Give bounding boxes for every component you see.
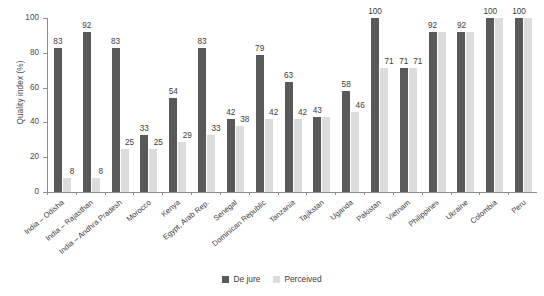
value-label-de-jure: 54	[162, 87, 184, 96]
bar-perceived	[380, 68, 388, 192]
value-label-de-jure: 79	[249, 44, 271, 53]
bar-perceived	[178, 142, 186, 192]
bar-de-jure	[400, 68, 408, 192]
x-tick	[76, 192, 77, 195]
bar-de-jure	[169, 98, 177, 192]
bar-group: 7171	[400, 18, 417, 192]
bar-de-jure	[285, 82, 293, 192]
bar-group: 43	[313, 18, 330, 192]
value-label-de-jure: 83	[191, 37, 213, 46]
value-label-de-jure: 33	[133, 124, 155, 133]
bar-group: 8325	[112, 18, 129, 192]
value-label-de-jure: 100	[479, 7, 501, 16]
bar-de-jure	[227, 119, 235, 192]
value-label-de-jure: 83	[47, 37, 69, 46]
x-tick	[364, 192, 365, 195]
value-label-de-jure: 100	[508, 7, 530, 16]
x-axis-label: Pakistan	[355, 198, 383, 224]
bar-perceived	[409, 68, 417, 192]
bar-perceived	[524, 18, 532, 192]
x-tick	[249, 192, 250, 195]
x-axis-label: Kenya	[159, 198, 181, 219]
legend-item[interactable]: De jure	[222, 274, 260, 284]
bar-de-jure	[198, 48, 206, 192]
bar-de-jure	[457, 32, 465, 192]
value-label-perceived: 71	[407, 57, 429, 66]
x-axis-label: Peru	[509, 198, 527, 215]
x-tick	[278, 192, 279, 195]
x-axis-label: Morocco	[125, 198, 153, 224]
value-label-de-jure: 43	[306, 106, 328, 115]
bar-perceived	[495, 18, 503, 192]
x-axis-label: Tanzania	[268, 198, 297, 224]
x-tick	[479, 192, 480, 195]
bar-group: 6342	[285, 18, 302, 192]
bar-chart: Quality index (%) 020406080100 838928832…	[0, 0, 544, 296]
bar-perceived	[121, 149, 129, 193]
legend-item[interactable]: Perceived	[273, 274, 321, 284]
bar-group: 928	[83, 18, 100, 192]
legend-swatch	[273, 276, 280, 283]
x-tick	[47, 192, 48, 195]
y-tick-label-0: 0	[13, 187, 39, 196]
bar-group: 10071	[371, 18, 388, 192]
y-tick-label-100: 100	[13, 13, 39, 22]
bar-group: 100	[486, 18, 503, 192]
bar-perceived	[466, 32, 474, 192]
value-label-de-jure: 58	[335, 80, 357, 89]
bar-group: 5429	[169, 18, 186, 192]
y-tick-100	[43, 18, 47, 19]
x-axis-label: Tajikstan	[297, 198, 325, 224]
bar-perceived	[149, 149, 157, 193]
x-tick	[393, 192, 394, 195]
value-label-de-jure: 100	[364, 7, 386, 16]
x-tick	[191, 192, 192, 195]
x-axis-label: Colombia	[468, 198, 498, 226]
value-label-de-jure: 63	[278, 71, 300, 80]
bar-group: 8333	[198, 18, 215, 192]
bar-perceived	[438, 32, 446, 192]
x-axis-label: Philippines	[407, 198, 441, 229]
value-label-perceived: 38	[234, 115, 256, 124]
chart-legend: De jurePerceived	[0, 274, 544, 284]
bar-group: 838	[54, 18, 71, 192]
legend-label: Perceived	[284, 274, 321, 284]
y-tick-40	[43, 122, 47, 123]
clipped-title	[34, 0, 294, 3]
bar-group: 100	[515, 18, 532, 192]
bar-de-jure	[256, 55, 264, 192]
x-axis-label: Ukraine	[444, 198, 470, 222]
bar-de-jure	[371, 18, 379, 192]
bar-group: 7942	[256, 18, 273, 192]
y-tick-label-20: 20	[13, 152, 39, 161]
value-label-perceived: 42	[263, 108, 285, 117]
value-label-perceived: 25	[147, 138, 169, 147]
plot-area: 8389288325332554298333423879426342435846…	[47, 18, 537, 192]
legend-label: De jure	[233, 274, 260, 284]
x-tick	[220, 192, 221, 195]
bar-de-jure	[515, 18, 523, 192]
x-tick	[335, 192, 336, 195]
x-tick	[422, 192, 423, 195]
value-label-de-jure: 92	[422, 21, 444, 30]
value-label-de-jure: 92	[76, 21, 98, 30]
value-label-perceived: 8	[90, 167, 112, 176]
value-label-perceived: 25	[119, 138, 141, 147]
bar-de-jure	[313, 117, 321, 192]
bar-perceived	[322, 117, 330, 192]
bar-group: 92	[429, 18, 446, 192]
bar-group: 3325	[140, 18, 157, 192]
x-tick	[162, 192, 163, 195]
x-axis-label: Dominican Republic	[210, 198, 268, 248]
bar-perceived	[265, 119, 273, 192]
value-label-de-jure: 92	[450, 21, 472, 30]
bar-group: 5846	[342, 18, 359, 192]
y-tick-60	[43, 88, 47, 89]
bar-perceived	[236, 126, 244, 192]
bar-perceived	[351, 112, 359, 192]
value-label-perceived: 29	[176, 131, 198, 140]
value-label-perceived: 33	[205, 124, 227, 133]
x-tick	[306, 192, 307, 195]
bar-de-jure	[429, 32, 437, 192]
bar-group: 92	[457, 18, 474, 192]
